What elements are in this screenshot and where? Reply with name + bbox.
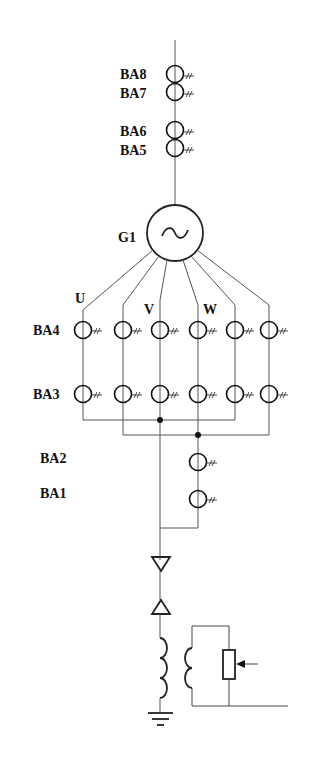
label-ba7: BA7: [120, 86, 146, 101]
label-ba2: BA2: [40, 451, 66, 466]
label-g1: G1: [118, 230, 136, 245]
label-ba1: BA1: [40, 486, 66, 501]
secondary-mark-icon: [207, 497, 218, 503]
arrester-down-icon: [152, 557, 170, 571]
label-ba5: BA5: [120, 143, 146, 158]
phase-label-w: W: [203, 302, 217, 317]
secondary-mark-icon: [184, 91, 195, 97]
ac-sine-icon: [162, 228, 188, 238]
ground-icon: [148, 713, 173, 725]
adjustable-resistor-icon: [223, 650, 258, 679]
secondary-mark-icon: [184, 129, 195, 135]
label-ba3: BA3: [33, 387, 59, 402]
ct-ba1: [190, 491, 218, 508]
arrester-up-icon: [152, 600, 170, 614]
secondary-mark-icon: [207, 460, 218, 466]
transformer-primary-coil-icon: [160, 638, 167, 698]
ct-array: [75, 322, 289, 561]
phase-label-v: V: [144, 302, 154, 317]
ct-ba2: [190, 454, 218, 471]
label-ba6: BA6: [120, 124, 146, 139]
secondary-mark-icon: [184, 147, 195, 153]
neutral-bus: [83, 417, 269, 438]
ct-ba8: BA8: [120, 66, 194, 83]
ct-ba7: BA7: [120, 84, 194, 102]
ct-row-ba4: [75, 322, 289, 339]
label-ba4: BA4: [33, 323, 59, 338]
ct-ba6: BA6: [120, 122, 194, 140]
ct-ba5: BA5: [120, 140, 194, 159]
generator-g1: G1: [118, 205, 203, 261]
transformer-secondary-coil-icon: [185, 648, 192, 688]
secondary-mark-icon: [184, 73, 195, 79]
ct-row-ba3: [75, 386, 289, 403]
phase-label-u: U: [75, 291, 85, 306]
label-ba8: BA8: [120, 67, 146, 82]
single-line-diagram: BA8 BA7 BA6 BA5 G1: [0, 0, 315, 761]
